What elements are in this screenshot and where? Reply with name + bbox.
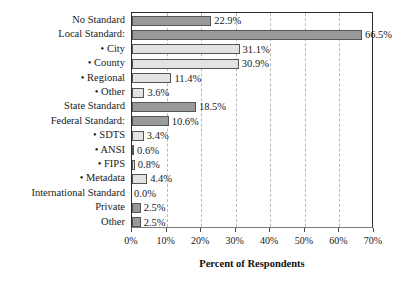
- bar-row: 18.5%: [132, 99, 372, 114]
- plot-area: 22.9%66.5%31.1%30.9%11.4%3.6%18.5%10.6%3…: [131, 12, 373, 228]
- bar-row: 4.4%: [132, 171, 372, 186]
- bar-row: 0.0%: [132, 186, 372, 201]
- bar-value-label: 0.6%: [137, 143, 159, 158]
- category-label: Private: [95, 199, 125, 214]
- bar-value-label: 11.4%: [174, 71, 201, 86]
- bar-value-label: 4.4%: [150, 171, 172, 186]
- tick-label: 10%: [156, 234, 174, 248]
- category-label-column: No StandardLocal Standard:• City• County…: [0, 12, 128, 228]
- tick-label: 50%: [295, 234, 313, 248]
- bar-value-label: 10.6%: [172, 114, 199, 129]
- bar: [132, 174, 147, 184]
- bar: [132, 16, 211, 26]
- category-label: • County: [88, 55, 125, 70]
- tick-mark: [166, 228, 167, 232]
- tick-mark: [373, 228, 374, 232]
- x-axis-title: Percent of Respondents: [131, 258, 373, 269]
- category-label: • City: [101, 41, 125, 56]
- bar-row: 0.8%: [132, 157, 372, 172]
- bar: [132, 217, 141, 227]
- bar: [132, 73, 171, 83]
- tick-label: 70%: [364, 234, 382, 248]
- bars-layer: 22.9%66.5%31.1%30.9%11.4%3.6%18.5%10.6%3…: [132, 13, 372, 227]
- bar-value-label: 0.8%: [138, 157, 160, 172]
- bar-row: 10.6%: [132, 114, 372, 129]
- category-label: International Standard: [31, 185, 125, 200]
- tick-mark: [269, 228, 270, 232]
- bar-row: 0.6%: [132, 143, 372, 158]
- tick-label: 0%: [124, 234, 137, 248]
- bar-value-label: 30.9%: [242, 56, 269, 71]
- bar: [132, 44, 240, 54]
- tick-mark: [235, 228, 236, 232]
- bar-value-label: 31.1%: [243, 42, 270, 57]
- bar-value-label: 3.4%: [147, 128, 169, 143]
- bar-value-label: 2.5%: [144, 200, 166, 215]
- tick-label: 20%: [191, 234, 209, 248]
- bar-row: 31.1%: [132, 42, 372, 57]
- tick-mark: [338, 228, 339, 232]
- category-label: No Standard: [72, 12, 125, 27]
- bar-value-label: 66.5%: [365, 27, 392, 42]
- tick-label: 60%: [329, 234, 347, 248]
- bar-value-label: 22.9%: [214, 13, 241, 28]
- category-label: • ANSI: [95, 142, 125, 157]
- bar: [132, 160, 135, 170]
- category-label: • FIPS: [98, 156, 125, 171]
- x-axis-tick-labels: 0%10%20%30%40%50%60%70%: [131, 234, 373, 248]
- category-label: • Other: [95, 84, 125, 99]
- bar-row: 3.6%: [132, 85, 372, 100]
- category-label: • Regional: [81, 70, 125, 85]
- tick-mark: [304, 228, 305, 232]
- category-label: • SDTS: [93, 127, 125, 142]
- bar: [132, 30, 362, 40]
- bar-row: 66.5%: [132, 27, 372, 42]
- bar: [132, 131, 144, 141]
- category-label: • Metadata: [80, 170, 125, 185]
- bar: [132, 203, 141, 213]
- bar-value-label: 18.5%: [199, 99, 226, 114]
- bar-row: 3.4%: [132, 128, 372, 143]
- bar-row: 22.9%: [132, 13, 372, 28]
- bar: [132, 145, 134, 155]
- tick-label: 40%: [260, 234, 278, 248]
- bar: [132, 59, 239, 69]
- category-label: Federal Standard:: [51, 113, 125, 128]
- bar: [132, 102, 196, 112]
- bar-row: 2.5%: [132, 200, 372, 215]
- bar-value-label: 0.0%: [134, 186, 156, 201]
- bar-row: 11.4%: [132, 71, 372, 86]
- category-label: Local Standard:: [58, 26, 125, 41]
- bar: [132, 88, 144, 98]
- category-label: State Standard: [64, 98, 125, 113]
- tick-mark: [131, 228, 132, 232]
- tick-mark: [200, 228, 201, 232]
- bar-chart: No StandardLocal Standard:• City• County…: [0, 0, 405, 287]
- bar-value-label: 3.6%: [147, 85, 169, 100]
- bar-row: 30.9%: [132, 56, 372, 71]
- bar: [132, 116, 169, 126]
- category-label: Other: [101, 214, 125, 229]
- tick-label: 30%: [226, 234, 244, 248]
